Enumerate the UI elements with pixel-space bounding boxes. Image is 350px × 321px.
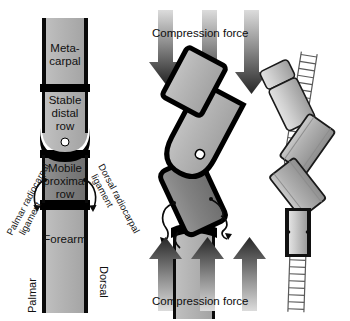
compression-force-top-label: Compression force <box>152 27 249 39</box>
segment-label-row-mobile: row <box>56 188 75 200</box>
segment-label-forearm: Forearm <box>43 233 86 245</box>
spring-block-4 <box>285 208 311 257</box>
segment-label-row-distal: row <box>56 120 75 132</box>
segment-label-proximal: proximal <box>43 175 86 187</box>
segment-forearm: Forearm <box>42 208 88 313</box>
segment-label-meta: Meta- <box>50 42 80 54</box>
segment-stable-distal-row: Stable distal row <box>40 84 90 162</box>
segment-label-stable: Stable <box>49 94 82 106</box>
segment-label-carpal: carpal <box>49 55 80 67</box>
segment-label-mobile: Mobile <box>48 162 82 174</box>
pivot-marker-left <box>61 138 69 146</box>
wrist-compression-diagram: Forearm Mobile proximal row Stable dista… <box>0 0 350 321</box>
segment-metacarpal: Meta- carpal <box>42 18 88 84</box>
dorsal-text: Dorsal <box>98 266 110 298</box>
segment-label-distal: distal <box>52 107 79 119</box>
label-dorsal: Dorsal <box>98 266 110 298</box>
compression-arrows-bottom: Compression force <box>149 237 266 311</box>
label-palmar: Palmar <box>26 278 38 313</box>
compression-force-bottom-label: Compression force <box>152 295 249 307</box>
palmar-text: Palmar <box>26 278 38 313</box>
